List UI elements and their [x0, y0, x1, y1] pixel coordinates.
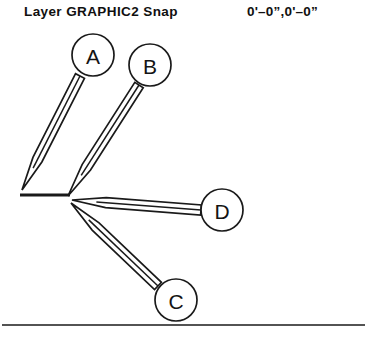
callout-bubble-c[interactable]: C [155, 279, 197, 321]
callout-bubble-b[interactable]: B [129, 44, 171, 86]
leader-b [68, 82, 143, 196]
leader-d [72, 198, 201, 215]
leader-a [22, 74, 84, 190]
callout-bubble-a[interactable]: A [72, 34, 114, 76]
bubble-label: B [143, 55, 157, 78]
leader-outline [68, 82, 143, 196]
leader-outline [22, 74, 84, 190]
leader-center-line [81, 85, 139, 175]
bubble-label: D [214, 200, 229, 223]
bubble-label: A [86, 45, 100, 68]
callout-bubble-d[interactable]: D [201, 189, 243, 231]
bubble-label: C [168, 290, 183, 313]
leader-lines-group [22, 74, 201, 290]
leader-c [71, 203, 161, 290]
cad-drawing-screen: Layer GRAPHIC2 Snap 0'–0”,0'–0” ABCD [0, 0, 367, 339]
drawing-canvas[interactable]: ABCD [0, 0, 367, 339]
leader-outline [72, 198, 201, 215]
leader-center-line [33, 76, 80, 168]
leader-center-line [89, 220, 158, 286]
